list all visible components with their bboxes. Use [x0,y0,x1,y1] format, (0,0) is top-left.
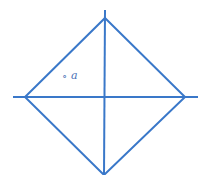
label-a: a [71,69,78,82]
diagram-canvas: ∘ a [0,0,200,175]
rhombus-diagram [0,0,200,175]
point-marker-icon: ∘ [62,70,67,83]
vertical-axis [104,10,105,175]
